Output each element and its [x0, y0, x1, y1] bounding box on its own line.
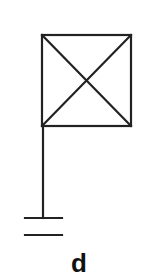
- figure-label: d: [64, 249, 94, 277]
- flag-symbol: [0, 0, 143, 279]
